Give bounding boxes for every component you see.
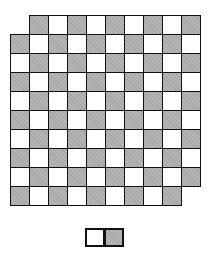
board-square-dark: [181, 167, 201, 187]
board-square-dark: [181, 129, 201, 149]
board-square-dark: [181, 91, 201, 111]
board-square-dark: [143, 91, 163, 111]
board-square-light: [105, 110, 125, 130]
board-square-dark: [29, 129, 49, 149]
board-square-light: [162, 91, 182, 111]
board-square-light: [67, 186, 87, 206]
domino: [85, 228, 125, 247]
board-square-dark: [10, 186, 30, 206]
board-square-light: [143, 186, 163, 206]
board-square-light: [29, 34, 49, 54]
board-square-light: [86, 167, 106, 187]
board-square-dark: [162, 72, 182, 92]
board-square-dark: [10, 148, 30, 168]
board-square-dark: [67, 15, 87, 35]
board-square-light: [105, 148, 125, 168]
board-square-dark: [86, 72, 106, 92]
board-square-light: [162, 167, 182, 187]
board-square-light: [86, 15, 106, 35]
board-square-light: [10, 167, 30, 187]
board-square-light: [124, 91, 144, 111]
board-square-dark: [48, 186, 68, 206]
board-square-light: [29, 110, 49, 130]
board-square-dark: [48, 148, 68, 168]
board-square-dark: [29, 167, 49, 187]
board-square-dark: [124, 110, 144, 130]
board-square-dark: [86, 110, 106, 130]
checkerboard: [10, 15, 200, 206]
board-square-light: [48, 167, 68, 187]
board-square-dark: [105, 53, 125, 73]
board-square-light: [86, 129, 106, 149]
domino-square-light: [85, 228, 105, 247]
board-square-dark: [124, 186, 144, 206]
board-square-dark: [143, 167, 163, 187]
board-square-light: [143, 34, 163, 54]
board-square-dark: [162, 34, 182, 54]
board-square-dark: [86, 186, 106, 206]
board-square-light: [162, 53, 182, 73]
board-square-dark: [86, 148, 106, 168]
board-square-dark: [143, 53, 163, 73]
board-square-dark: [48, 34, 68, 54]
board-square-dark: [162, 110, 182, 130]
board-square-dark: [105, 167, 125, 187]
board-square-dark: [105, 129, 125, 149]
board-square-dark: [48, 110, 68, 130]
board-square-light: [10, 53, 30, 73]
board-square-light: [48, 53, 68, 73]
board-square-light: [162, 15, 182, 35]
board-square-light: [67, 148, 87, 168]
board-square-light: [48, 129, 68, 149]
board-square-light: [105, 72, 125, 92]
board-square-dark: [67, 53, 87, 73]
board-square-dark: [181, 15, 201, 35]
board-square-light: [181, 34, 201, 54]
board-square-light: [67, 110, 87, 130]
board-square-dark: [162, 148, 182, 168]
board-square-light: [67, 34, 87, 54]
board-square-dark: [124, 72, 144, 92]
board-square-light: [48, 15, 68, 35]
board-square-dark: [67, 129, 87, 149]
board-square-dark: [10, 34, 30, 54]
board-square-light: [124, 15, 144, 35]
board-square-light: [105, 34, 125, 54]
board-square-light: [105, 186, 125, 206]
board-square-dark: [86, 34, 106, 54]
board-square-light: [29, 72, 49, 92]
board-square-light: [10, 129, 30, 149]
board-square-dark: [10, 72, 30, 92]
board-square-light: [143, 110, 163, 130]
board-square-light: [86, 53, 106, 73]
board-square-light: [162, 129, 182, 149]
board-square-dark: [29, 53, 49, 73]
board-square-light: [29, 148, 49, 168]
board-square-dark: [143, 129, 163, 149]
board-square-dark: [29, 91, 49, 111]
board-square-dark: [124, 34, 144, 54]
board-square-light: [181, 110, 201, 130]
board-square-dark: [162, 186, 182, 206]
board-square-light: [181, 72, 201, 92]
board-square-dark: [29, 15, 49, 35]
board-square-dark: [181, 53, 201, 73]
board-square-light: [67, 72, 87, 92]
board-square-light: [10, 91, 30, 111]
domino-square-dark: [104, 228, 124, 247]
board-square-dark: [67, 91, 87, 111]
board-square-light: [124, 167, 144, 187]
board-square-dark: [105, 15, 125, 35]
board-square-dark: [67, 167, 87, 187]
board-square-light: [181, 148, 201, 168]
board-square-light: [29, 186, 49, 206]
board-square-dark: [48, 72, 68, 92]
board-square-dark: [105, 91, 125, 111]
board-square-dark: [143, 15, 163, 35]
board-square-dark: [124, 148, 144, 168]
board-square-light: [143, 148, 163, 168]
board-square-light: [124, 53, 144, 73]
board-square-light: [143, 72, 163, 92]
board-square-light: [48, 91, 68, 111]
board-square-dark: [10, 110, 30, 130]
